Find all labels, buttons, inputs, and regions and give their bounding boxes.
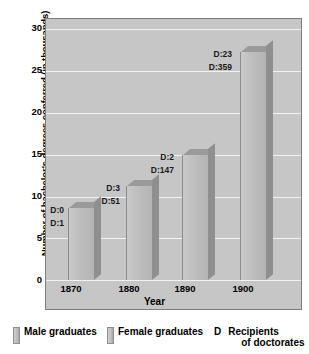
bar-face (69, 208, 94, 280)
legend-doctorate-marker: D (214, 326, 221, 337)
x-tick-label-1900: 1900 (220, 283, 266, 294)
gridline-30 (46, 29, 301, 30)
chart-legend: Male graduates Female graduates D Recipi… (0, 318, 309, 354)
x-axis-title: Year (0, 296, 309, 307)
bar-1890-male (182, 155, 208, 280)
bar-face (241, 52, 266, 280)
d-label-1890-top: D:2 (148, 152, 174, 162)
bar-side-face (266, 40, 273, 280)
y-tick-label-20: 20 (20, 106, 42, 117)
gridline-0 (46, 280, 301, 281)
bar-1880-male (126, 186, 152, 280)
x-tick-label-1890: 1890 (162, 283, 208, 294)
bar-side-face (94, 196, 101, 280)
bar-side-face (208, 143, 215, 280)
bar-face (183, 155, 208, 280)
legend-label-female: Female graduates (118, 326, 203, 337)
bar-side-face (152, 174, 159, 280)
y-tick-label-30: 30 (20, 22, 42, 33)
legend-entry-doctorates: D Recipients of doctorates (214, 326, 305, 348)
legend-entry-female: Female graduates (107, 326, 203, 344)
legend-label-doctorates-line2: of doctorates (228, 337, 304, 348)
legend-swatch-male-icon (13, 327, 20, 344)
d-label-1880-bottom: D:51 (90, 196, 120, 206)
d-label-1900-bottom: D:359 (194, 62, 232, 72)
legend-label-male: Male graduates (24, 326, 97, 337)
y-tick-label-5: 5 (20, 232, 42, 243)
chart-figure: Number of bachelor's degrees conferred (… (0, 0, 309, 354)
d-label-1870-bottom: D:1 (45, 218, 64, 228)
x-tick-label-1870: 1870 (48, 283, 94, 294)
y-tick-label-25: 25 (20, 64, 42, 75)
d-label-1890-bottom: D:147 (140, 165, 174, 175)
legend-swatch-female-icon (107, 327, 114, 344)
bar-1900-male (240, 52, 266, 280)
bar-1870-male (68, 208, 94, 280)
y-tick-label-10: 10 (20, 190, 42, 201)
legend-entry-male: Male graduates (13, 326, 97, 344)
y-tick-label-15: 15 (20, 148, 42, 159)
bar-face (127, 186, 152, 280)
plot-area: D:0 D:1 D:3 D:51 D:2 D:147 D:23 D:359 (45, 18, 302, 310)
y-tick-label-0: 0 (20, 274, 42, 285)
d-label-1900-top: D:23 (198, 49, 232, 59)
legend-doctorate-text: Recipients of doctorates (228, 326, 304, 348)
x-tick-label-1880: 1880 (106, 283, 152, 294)
legend-label-doctorates-line1: Recipients (228, 326, 304, 337)
d-label-1870-top: D:0 (45, 205, 64, 215)
d-label-1880-top: D:3 (94, 183, 120, 193)
